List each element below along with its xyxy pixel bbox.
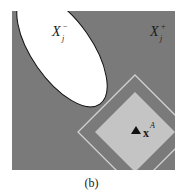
label-x-minus-base: X <box>52 24 61 39</box>
label-x-minus-sub: j <box>62 34 64 43</box>
label-x-minus: X − j <box>52 24 61 40</box>
label-point-sup: A <box>150 121 155 130</box>
label-x-plus-sup: + <box>161 22 166 31</box>
label-point-xa: x A <box>143 126 149 141</box>
label-point-base: x <box>143 126 149 140</box>
figure-caption: (b) <box>0 176 183 191</box>
label-x-minus-sup: − <box>63 22 68 31</box>
label-x-plus-base: X <box>150 24 159 39</box>
figure-diagram: X − j X + j x A (b) <box>0 0 183 196</box>
label-x-plus-sub: j <box>160 34 162 43</box>
label-x-plus: X + j <box>150 24 159 40</box>
